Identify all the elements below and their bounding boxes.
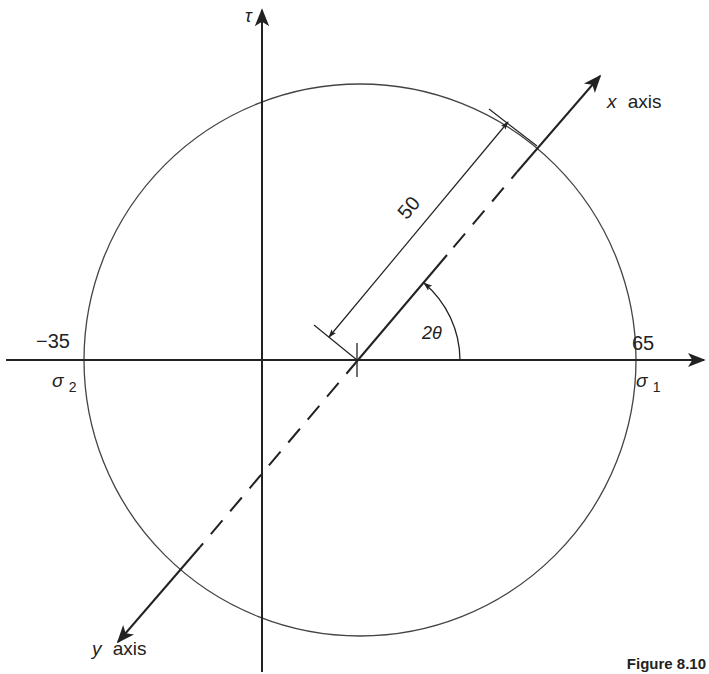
sigma2-label: σ 2 bbox=[52, 370, 77, 395]
y-axis-word: axis bbox=[113, 638, 147, 659]
sigma2-symbol: σ bbox=[52, 370, 65, 391]
y-axis-line bbox=[118, 360, 358, 642]
sigma1-symbol: σ bbox=[636, 370, 649, 391]
x-axis-line bbox=[358, 76, 600, 360]
y-axis-var: y bbox=[90, 638, 103, 659]
sigma1-value-label: 65 bbox=[632, 332, 654, 354]
sigma2-value-label: −35 bbox=[36, 330, 70, 352]
sigma2-subscript: 2 bbox=[69, 379, 77, 395]
angle-label: 2θ bbox=[421, 323, 442, 343]
sigma1-label: σ 1 bbox=[636, 370, 661, 395]
x-axis-word: axis bbox=[628, 91, 662, 112]
y-axis-label: y axis bbox=[90, 638, 147, 659]
angle-arc: 2θ bbox=[421, 283, 460, 360]
figure-caption: Figure 8.10 bbox=[627, 655, 706, 672]
x-axis-var: x bbox=[606, 91, 618, 112]
sigma1-subscript: 1 bbox=[653, 379, 661, 395]
x-axis-label: x axis bbox=[606, 91, 662, 112]
tau-label: τ bbox=[245, 6, 253, 26]
mohr-circle-figure: 50 2θ τ x axis y axis −35 σ 2 65 σ 1 Fig… bbox=[0, 0, 709, 674]
radius-label: 50 bbox=[393, 192, 424, 223]
